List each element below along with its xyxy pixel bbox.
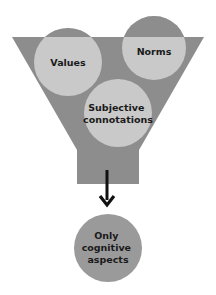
subjective-connotations-circle [84, 79, 152, 147]
values-label: Values [50, 57, 86, 68]
norms-label: Norms [137, 46, 172, 57]
funnel-diagram: Values Norms Subjective connotations Onl… [0, 0, 216, 295]
subjective-connotations-label: Subjective connotations [83, 102, 153, 125]
